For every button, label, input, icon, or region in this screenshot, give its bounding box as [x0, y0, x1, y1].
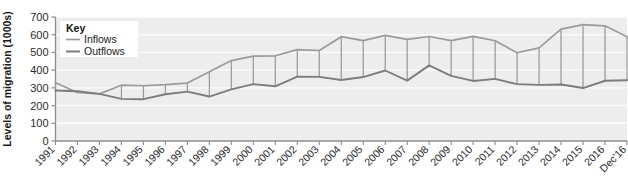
- migration-line-chart: 0100200300400500600700Levels of migratio…: [0, 0, 628, 194]
- x-axis-tick-label: 2011: [472, 143, 497, 168]
- y-axis-tick-label: 400: [30, 64, 48, 76]
- x-axis-tick-label: 2008: [406, 143, 431, 168]
- legend-label-outflows: Outflows: [84, 45, 125, 57]
- x-axis-tick-label: 1996: [142, 143, 167, 168]
- x-axis-tick-label: 2001: [252, 143, 277, 168]
- x-axis-tick-label: 2010: [450, 143, 475, 168]
- x-axis-tick-label: 2009: [428, 143, 453, 168]
- x-axis-tick-label: 2014: [537, 143, 562, 168]
- x-axis-tick-label: 2004: [318, 143, 343, 168]
- y-axis-title: Levels of migration (1000s): [1, 11, 13, 146]
- x-axis-tick-label: 1997: [164, 143, 189, 168]
- x-axis-tick-label: 1995: [120, 143, 145, 168]
- x-axis-tick-label: 2013: [515, 143, 540, 168]
- y-axis-tick-label: 500: [30, 46, 48, 58]
- y-axis-tick-label: 100: [30, 117, 48, 129]
- x-axis-tick-label: 2006: [362, 143, 387, 168]
- y-axis-tick-label: 700: [30, 11, 48, 23]
- x-axis-tick-label: 2000: [230, 143, 255, 168]
- x-axis-tick-label: 2007: [384, 143, 409, 168]
- x-axis-tick-label: 2003: [296, 143, 321, 168]
- x-axis-tick-label: 1992: [54, 143, 79, 168]
- x-axis-tick-label: 2015: [559, 143, 584, 168]
- x-axis-tick-label: 2002: [274, 143, 299, 168]
- y-axis-tick-label: 300: [30, 82, 48, 94]
- chart-canvas: 0100200300400500600700Levels of migratio…: [0, 0, 628, 194]
- x-axis-tick-label: 2005: [340, 143, 365, 168]
- y-axis-tick-label: 600: [30, 29, 48, 41]
- legend-label-inflows: Inflows: [84, 33, 117, 45]
- legend-title: Key: [66, 22, 85, 34]
- x-axis-tick-label: 1993: [76, 143, 101, 168]
- x-axis-tick-label: 1998: [186, 143, 211, 168]
- x-axis-tick-label: 1999: [208, 143, 233, 168]
- x-axis-tick-label: 1991: [32, 143, 57, 168]
- x-axis-tick-label: 1994: [98, 143, 123, 168]
- x-axis-tick-label: 2012: [494, 143, 519, 168]
- y-axis-tick-label: 200: [30, 100, 48, 112]
